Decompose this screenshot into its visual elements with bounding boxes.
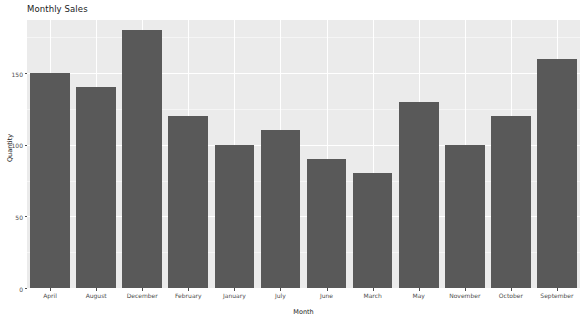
bar	[307, 159, 347, 288]
plot-area	[27, 20, 580, 288]
x-axis-label: Month	[27, 308, 580, 316]
x-axis-tick-mark	[96, 288, 97, 291]
y-axis-tick: 100	[0, 145, 27, 146]
bar	[122, 30, 162, 288]
y-axis-tick: 150	[0, 73, 27, 74]
bar	[537, 59, 577, 288]
x-axis-tick: September	[527, 288, 587, 308]
x-axis-tick-label: September	[527, 292, 587, 300]
x-axis-tick-mark	[511, 288, 512, 291]
bar	[261, 130, 301, 288]
bar	[215, 145, 255, 288]
bar	[491, 116, 531, 288]
bar	[445, 145, 485, 288]
bar	[353, 173, 393, 288]
y-axis-tick: 50	[0, 216, 27, 217]
x-axis-tick-mark	[280, 288, 281, 291]
x-axis-tick-mark	[465, 288, 466, 291]
bar-chart: Monthly Sales Quantity 050100150 AprilAu…	[0, 0, 587, 324]
y-axis-tick-mark	[25, 216, 28, 217]
bar	[76, 87, 116, 288]
chart-title: Monthly Sales	[27, 4, 88, 15]
x-axis-tick-mark	[188, 288, 189, 291]
bar	[399, 102, 439, 288]
y-axis-tick-label: 150	[12, 70, 23, 77]
bar	[30, 73, 70, 288]
y-axis-tick-label: 100	[12, 142, 23, 149]
x-axis-tick-mark	[419, 288, 420, 291]
bar-series	[27, 20, 580, 288]
y-axis-tick-mark	[25, 145, 28, 146]
y-axis-tick-label: 50	[15, 213, 23, 220]
x-axis-tick-mark	[373, 288, 374, 291]
x-axis-tick-mark	[142, 288, 143, 291]
y-axis-tick-mark	[25, 73, 28, 74]
x-axis-tick-mark	[557, 288, 558, 291]
x-axis-tick-mark	[50, 288, 51, 291]
x-axis-tick-mark	[234, 288, 235, 291]
bar	[168, 116, 208, 288]
x-axis-tick-mark	[327, 288, 328, 291]
